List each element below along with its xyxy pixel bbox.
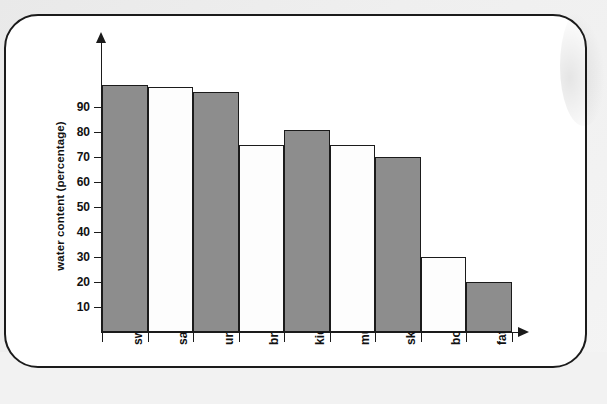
y-axis-tick-label: 30 bbox=[66, 250, 90, 264]
y-axis-tick-mark bbox=[94, 232, 101, 233]
bar-skin bbox=[375, 157, 421, 332]
y-axis-tick-mark bbox=[94, 257, 101, 258]
y-axis-tick-label: 90 bbox=[66, 100, 90, 114]
y-axis-label: water content (percentage) bbox=[54, 96, 66, 296]
x-axis-tick-mark bbox=[148, 333, 149, 342]
bar-sweat bbox=[102, 85, 148, 333]
y-axis-tick-label: 80 bbox=[66, 125, 90, 139]
x-axis-tick-mark bbox=[330, 333, 331, 342]
y-axis-tick-mark bbox=[94, 207, 101, 208]
bar-saliva bbox=[148, 87, 194, 332]
y-axis-tick-label: 60 bbox=[66, 175, 90, 189]
x-axis-tick-mark bbox=[284, 333, 285, 342]
x-axis-tick-mark bbox=[466, 333, 467, 342]
bar-kidneys bbox=[284, 130, 330, 333]
x-axis-tick-mark bbox=[512, 333, 513, 342]
y-axis-tick-label: 50 bbox=[66, 200, 90, 214]
x-axis-tick-mark bbox=[421, 333, 422, 342]
x-axis-tick-mark bbox=[193, 333, 194, 342]
bar-fat bbox=[466, 282, 512, 332]
y-axis-tick-label: 70 bbox=[66, 150, 90, 164]
bar-bone bbox=[421, 257, 467, 332]
y-axis-tick-mark bbox=[94, 107, 101, 108]
y-axis-tick-label: 10 bbox=[66, 300, 90, 314]
x-axis-arrow-icon bbox=[518, 327, 529, 337]
x-axis-tick-mark bbox=[375, 333, 376, 342]
y-axis-tick-mark bbox=[94, 132, 101, 133]
y-axis-tick-label: 20 bbox=[66, 275, 90, 289]
y-axis-tick-mark bbox=[94, 282, 101, 283]
x-axis-category-label-fat: fat bbox=[495, 330, 509, 345]
bar-chart: water content (percentage) 1020304050607… bbox=[0, 0, 607, 404]
bar-brain bbox=[239, 145, 285, 333]
y-axis-tick-mark bbox=[94, 307, 101, 308]
y-axis-tick-label: 40 bbox=[66, 225, 90, 239]
bar-urine bbox=[193, 92, 239, 332]
y-axis-arrow-icon bbox=[96, 32, 106, 43]
y-axis-tick-mark bbox=[94, 157, 101, 158]
x-axis-tick-mark bbox=[239, 333, 240, 342]
y-axis-tick-labels: 102030405060708090 bbox=[66, 0, 90, 404]
y-axis-tick-mark bbox=[94, 182, 101, 183]
x-axis-tick-mark bbox=[102, 333, 103, 342]
bar-muscle bbox=[330, 145, 376, 333]
